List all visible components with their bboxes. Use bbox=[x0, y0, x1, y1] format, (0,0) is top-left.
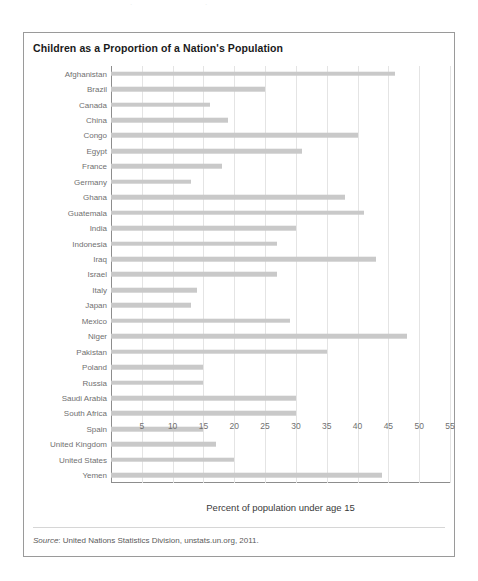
chart-row: Poland bbox=[111, 359, 450, 374]
x-tick-label: 45 bbox=[384, 421, 393, 431]
y-label-slot: Congo bbox=[25, 128, 107, 143]
x-axis-title: Percent of population under age 15 bbox=[111, 502, 450, 513]
chart-row: Guatemala bbox=[111, 205, 450, 220]
y-label-slot: Afghanistan bbox=[25, 66, 107, 81]
y-tick-label: Mexico bbox=[82, 316, 107, 325]
bar-india bbox=[111, 226, 296, 231]
source-label: Source bbox=[33, 536, 58, 545]
bar-iraq bbox=[111, 257, 376, 262]
y-tick-label: Israel bbox=[87, 270, 107, 279]
y-label-slot: Saudi Arabia bbox=[25, 390, 107, 405]
chart-row: Russia bbox=[111, 375, 450, 390]
y-label-slot: Iraq bbox=[25, 251, 107, 266]
chart-row: Indonesia bbox=[111, 236, 450, 251]
bar-germany bbox=[111, 180, 191, 185]
y-label-slot: South Africa bbox=[25, 406, 107, 421]
bar-russia bbox=[111, 380, 203, 385]
bar-poland bbox=[111, 365, 203, 370]
bar-ghana bbox=[111, 195, 345, 200]
chart-row: Ghana bbox=[111, 190, 450, 205]
x-tick-label: 25 bbox=[260, 421, 269, 431]
chart-row: India bbox=[111, 220, 450, 235]
y-label-slot: Poland bbox=[25, 359, 107, 374]
chart-row: Italy bbox=[111, 282, 450, 297]
y-tick-label: China bbox=[86, 116, 107, 125]
y-label-slot: Germany bbox=[25, 174, 107, 189]
y-label-slot: Japan bbox=[25, 298, 107, 313]
y-tick-label: Afghanistan bbox=[65, 69, 107, 78]
y-label-slot: Mexico bbox=[25, 313, 107, 328]
chart-row: France bbox=[111, 159, 450, 174]
x-tick-label: 55 bbox=[445, 421, 454, 431]
chart-row: Canada bbox=[111, 97, 450, 112]
y-tick-label: France bbox=[82, 162, 107, 171]
bar-israel bbox=[111, 272, 277, 277]
chart-row: United Kingdom bbox=[111, 437, 450, 452]
x-tick-label: 5 bbox=[139, 421, 144, 431]
y-label-slot: Niger bbox=[25, 329, 107, 344]
chart-row: Japan bbox=[111, 298, 450, 313]
y-label-slot: Canada bbox=[25, 97, 107, 112]
y-tick-label: Brazil bbox=[87, 85, 107, 94]
source-text: : United Nations Statistics Division, un… bbox=[58, 536, 258, 545]
chart-row: Israel bbox=[111, 267, 450, 282]
bar-united-states bbox=[111, 458, 234, 463]
y-tick-label: Japan bbox=[85, 301, 107, 310]
y-tick-label: Egypt bbox=[87, 146, 107, 155]
bar-mexico bbox=[111, 319, 290, 324]
y-label-slot: Egypt bbox=[25, 143, 107, 158]
y-tick-label: Congo bbox=[83, 131, 107, 140]
y-tick-label: Iraq bbox=[93, 255, 107, 264]
chart-row: Afghanistan bbox=[111, 66, 450, 81]
plot-area: AfghanistanBrazilCanadaChinaCongoEgyptFr… bbox=[111, 66, 450, 483]
y-tick-label: Canada bbox=[79, 100, 107, 109]
x-tick-label: 30 bbox=[291, 421, 300, 431]
bar-japan bbox=[111, 303, 191, 308]
bar-south-africa bbox=[111, 411, 296, 416]
chart-page: · · Children as a Proportion of a Nation… bbox=[0, 0, 478, 581]
y-tick-label: Poland bbox=[82, 363, 107, 372]
chart-row: Saudi Arabia bbox=[111, 390, 450, 405]
y-label-slot: United Kingdom bbox=[25, 437, 107, 452]
y-tick-label: Guatemala bbox=[68, 208, 107, 217]
chart-row: Congo bbox=[111, 128, 450, 143]
y-label-slot: Pakistan bbox=[25, 344, 107, 359]
y-tick-label: United States bbox=[59, 455, 107, 464]
bar-united-kingdom bbox=[111, 442, 216, 447]
bar-brazil bbox=[111, 87, 265, 92]
y-tick-label: Pakistan bbox=[76, 347, 107, 356]
bar-egypt bbox=[111, 149, 302, 154]
x-tick-label: 20 bbox=[230, 421, 239, 431]
y-tick-label: Russia bbox=[83, 378, 107, 387]
bar-pakistan bbox=[111, 349, 327, 354]
y-label-slot: China bbox=[25, 112, 107, 127]
bar-congo bbox=[111, 133, 358, 138]
y-label-slot: United States bbox=[25, 452, 107, 467]
y-tick-label: South Africa bbox=[64, 409, 107, 418]
bar-afghanistan bbox=[111, 71, 395, 76]
y-label-slot: Spain bbox=[25, 421, 107, 436]
y-tick-label: Spain bbox=[87, 424, 107, 433]
bar-guatemala bbox=[111, 210, 364, 215]
bar-china bbox=[111, 118, 228, 123]
y-tick-label: Yemen bbox=[82, 471, 107, 480]
x-tick-label: 50 bbox=[414, 421, 423, 431]
chart-row: Brazil bbox=[111, 81, 450, 96]
y-label-slot: Italy bbox=[25, 282, 107, 297]
x-tick-label: 15 bbox=[199, 421, 208, 431]
chart-row: China bbox=[111, 112, 450, 127]
bar-niger bbox=[111, 334, 407, 339]
y-label-slot: France bbox=[25, 159, 107, 174]
x-tick-label: 10 bbox=[168, 421, 177, 431]
y-label-slot: Yemen bbox=[25, 468, 107, 483]
bar-italy bbox=[111, 288, 197, 293]
y-tick-label: United Kingdom bbox=[50, 440, 107, 449]
y-label-slot: Israel bbox=[25, 267, 107, 282]
chart-row: Niger bbox=[111, 329, 450, 344]
chart-row: South Africa bbox=[111, 406, 450, 421]
x-tick-label: 40 bbox=[353, 421, 362, 431]
bar-yemen bbox=[111, 473, 382, 478]
y-tick-label: Italy bbox=[92, 285, 107, 294]
bar-saudi-arabia bbox=[111, 396, 296, 401]
y-tick-label: Niger bbox=[88, 332, 107, 341]
